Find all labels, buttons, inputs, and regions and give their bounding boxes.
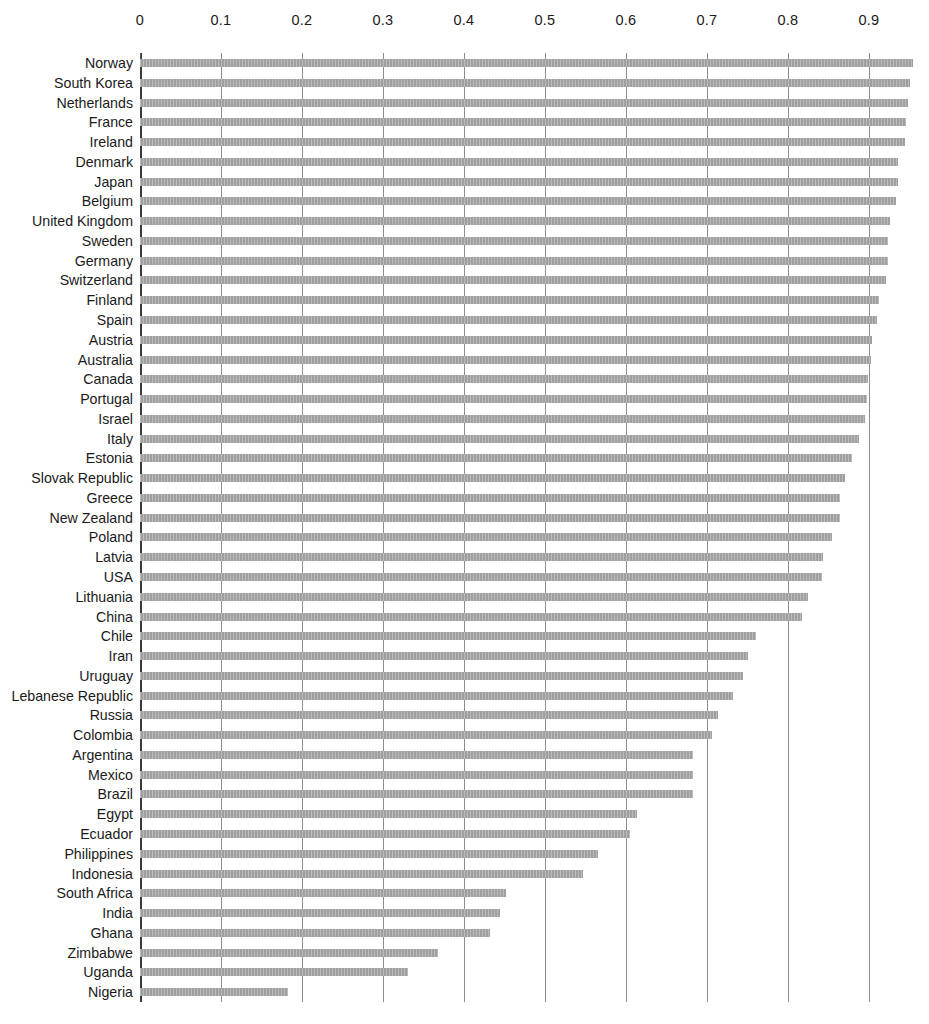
bar-uganda[interactable] xyxy=(140,968,408,976)
bar-row[interactable] xyxy=(140,889,929,897)
bar-row[interactable] xyxy=(140,356,929,364)
bar-row[interactable] xyxy=(140,988,929,996)
bar-chile[interactable] xyxy=(140,632,756,640)
bar-row[interactable] xyxy=(140,276,929,284)
bar-brazil[interactable] xyxy=(140,790,693,798)
bar-uruguay[interactable] xyxy=(140,672,743,680)
bar-india[interactable] xyxy=(140,909,500,917)
bar-estonia[interactable] xyxy=(140,454,852,462)
bar-norway[interactable] xyxy=(140,59,913,67)
bar-row[interactable] xyxy=(140,435,929,443)
bar-denmark[interactable] xyxy=(140,158,898,166)
bar-row[interactable] xyxy=(140,692,929,700)
bar-ghana[interactable] xyxy=(140,929,490,937)
bar-japan[interactable] xyxy=(140,178,898,186)
bar-row[interactable] xyxy=(140,395,929,403)
bar-belgium[interactable] xyxy=(140,197,896,205)
bar-row[interactable] xyxy=(140,99,929,107)
bar-iran[interactable] xyxy=(140,652,748,660)
bar-row[interactable] xyxy=(140,59,929,67)
bar-row[interactable] xyxy=(140,118,929,126)
bar-philippines[interactable] xyxy=(140,850,598,858)
bar-row[interactable] xyxy=(140,257,929,265)
bar-austria[interactable] xyxy=(140,336,872,344)
bar-lithuania[interactable] xyxy=(140,593,808,601)
bar-australia[interactable] xyxy=(140,356,871,364)
bar-nigeria[interactable] xyxy=(140,988,288,996)
bar-row[interactable] xyxy=(140,790,929,798)
bar-row[interactable] xyxy=(140,593,929,601)
bar-italy[interactable] xyxy=(140,435,859,443)
bar-row[interactable] xyxy=(140,217,929,225)
bar-row[interactable] xyxy=(140,553,929,561)
bar-row[interactable] xyxy=(140,751,929,759)
bar-row[interactable] xyxy=(140,336,929,344)
bar-south-korea[interactable] xyxy=(140,79,910,87)
bar-row[interactable] xyxy=(140,138,929,146)
bar-portugal[interactable] xyxy=(140,395,867,403)
bar-row[interactable] xyxy=(140,474,929,482)
bar-greece[interactable] xyxy=(140,494,840,502)
bar-egypt[interactable] xyxy=(140,810,637,818)
bar-row[interactable] xyxy=(140,652,929,660)
bar-china[interactable] xyxy=(140,613,802,621)
bar-row[interactable] xyxy=(140,771,929,779)
bar-row[interactable] xyxy=(140,375,929,383)
bar-new-zealand[interactable] xyxy=(140,514,840,522)
bar-colombia[interactable] xyxy=(140,731,712,739)
bar-russia[interactable] xyxy=(140,711,718,719)
bar-latvia[interactable] xyxy=(140,553,823,561)
bar-lebanese-republic[interactable] xyxy=(140,692,733,700)
category-label-colombia: Colombia xyxy=(0,728,133,742)
bar-row[interactable] xyxy=(140,316,929,324)
bar-zimbabwe[interactable] xyxy=(140,949,438,957)
bar-row[interactable] xyxy=(140,672,929,680)
bar-row[interactable] xyxy=(140,810,929,818)
bar-finland[interactable] xyxy=(140,296,879,304)
bar-united-kingdom[interactable] xyxy=(140,217,890,225)
bar-row[interactable] xyxy=(140,79,929,87)
bar-row[interactable] xyxy=(140,237,929,245)
bar-row[interactable] xyxy=(140,573,929,581)
bar-row[interactable] xyxy=(140,178,929,186)
bar-row[interactable] xyxy=(140,415,929,423)
bar-row[interactable] xyxy=(140,731,929,739)
bar-row[interactable] xyxy=(140,929,929,937)
bar-row[interactable] xyxy=(140,533,929,541)
bar-ireland[interactable] xyxy=(140,138,905,146)
bar-netherlands[interactable] xyxy=(140,99,908,107)
bar-row[interactable] xyxy=(140,494,929,502)
bar-row[interactable] xyxy=(140,514,929,522)
bar-row[interactable] xyxy=(140,158,929,166)
bar-switzerland[interactable] xyxy=(140,276,886,284)
bar-row[interactable] xyxy=(140,711,929,719)
bar-row[interactable] xyxy=(140,949,929,957)
bar-row[interactable] xyxy=(140,968,929,976)
bar-indonesia[interactable] xyxy=(140,870,583,878)
bar-row[interactable] xyxy=(140,197,929,205)
bar-poland[interactable] xyxy=(140,533,832,541)
bar-south-africa[interactable] xyxy=(140,889,506,897)
bar-canada[interactable] xyxy=(140,375,868,383)
category-label-philippines: Philippines xyxy=(0,847,133,861)
bar-row[interactable] xyxy=(140,909,929,917)
bar-sweden[interactable] xyxy=(140,237,888,245)
bar-row[interactable] xyxy=(140,870,929,878)
bar-israel[interactable] xyxy=(140,415,865,423)
y-axis-line xyxy=(140,53,142,1002)
bar-slovak-republic[interactable] xyxy=(140,474,845,482)
bar-spain[interactable] xyxy=(140,316,877,324)
bar-row[interactable] xyxy=(140,830,929,838)
bar-row[interactable] xyxy=(140,296,929,304)
bar-row[interactable] xyxy=(140,454,929,462)
bar-mexico[interactable] xyxy=(140,771,693,779)
bar-usa[interactable] xyxy=(140,573,822,581)
bar-row[interactable] xyxy=(140,850,929,858)
bar-row[interactable] xyxy=(140,632,929,640)
bar-row[interactable] xyxy=(140,613,929,621)
bar-france[interactable] xyxy=(140,118,906,126)
category-label-chile: Chile xyxy=(0,629,133,643)
bar-germany[interactable] xyxy=(140,257,888,265)
bar-argentina[interactable] xyxy=(140,751,693,759)
bar-ecuador[interactable] xyxy=(140,830,630,838)
